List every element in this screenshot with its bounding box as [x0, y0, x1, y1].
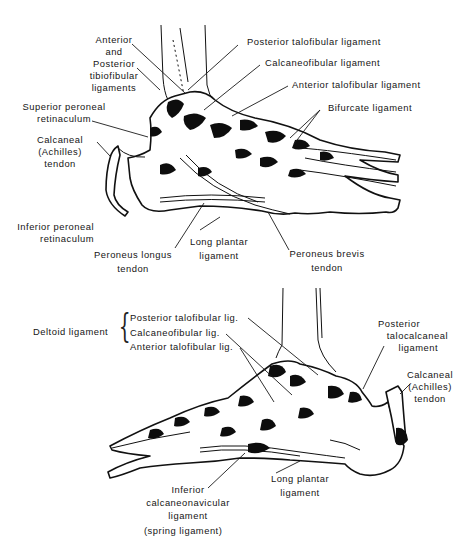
label-line: Inferior: [140, 484, 236, 496]
label-line: Superior peroneal: [18, 101, 110, 113]
label-line: retinaculum: [10, 233, 94, 245]
label-line: ligaments: [86, 82, 142, 94]
label-superior-peroneal-retinaculum: Superior peroneal retinaculum: [18, 101, 110, 125]
label-posterior-talocalcaneal-ligament: Posterior talocalcaneal ligament: [376, 318, 448, 354]
label-long-plantar-ligament-top: Long plantar ligament: [186, 236, 252, 262]
label-line: Peroneus longus: [90, 249, 176, 261]
label-line: Anterior: [86, 34, 142, 46]
label-line: Posterior: [376, 318, 448, 330]
label-line: (Achilles): [30, 146, 90, 158]
label-line: Calcaneal: [30, 134, 90, 146]
label-bifurcate-ligament: Bifurcate ligament: [328, 102, 412, 114]
label-line: Bifurcate ligament: [328, 102, 412, 114]
label-long-plantar-ligament-bottom: Long plantar ligament: [266, 473, 334, 499]
label-calcaneal-achilles-tendon-top: Calcaneal (Achilles) tendon: [30, 134, 90, 170]
label-line: ligament: [376, 342, 448, 354]
label-line: tibiofibular: [86, 70, 142, 82]
label-line: Anterior talofibular ligament: [292, 79, 421, 91]
label-line: (Achilles): [402, 381, 458, 393]
group-item-calcaneofibular: Calcaneofibular lig.: [130, 326, 238, 341]
label-inferior-calcaneonavicular-ligament: Inferior calcaneonavicular ligament (spr…: [140, 484, 236, 537]
label-peroneus-longus-tendon: Peroneus longus tendon: [90, 249, 176, 275]
top-foot-drawing: [106, 25, 400, 216]
label-line: Posterior: [86, 58, 142, 70]
group-item-posterior-talofibular: Posterior talofibular lig.: [130, 311, 238, 326]
label-line: retinaculum: [18, 113, 110, 125]
label-line: Long plantar: [266, 473, 334, 485]
label-line: ligament: [266, 487, 334, 499]
label-anterior-talofibular-ligament: Anterior talofibular ligament: [292, 79, 421, 91]
label-line: Peroneus brevis: [282, 248, 372, 260]
label-calcaneofibular-ligament: Calcaneofibular ligament: [265, 57, 380, 69]
label-line: tendon: [90, 263, 176, 275]
brace-icon: {: [119, 308, 131, 342]
label-line: (spring ligament): [140, 525, 236, 537]
label-line: tendon: [30, 158, 90, 170]
label-posterior-talofibular-ligament: Posterior talofibular ligament: [247, 36, 381, 48]
label-line: ligament: [140, 510, 236, 522]
label-line: ligament: [186, 250, 252, 262]
label-peroneus-brevis-tendon: Peroneus brevis tendon: [282, 248, 372, 274]
group-label-text: Deltoid ligament: [33, 326, 108, 337]
label-deltoid-group-items: Posterior talofibular lig. Calcaneofibul…: [130, 311, 238, 355]
label-line: and: [86, 46, 142, 58]
label-line: tendon: [402, 393, 458, 405]
group-item-anterior-talofibular: Anterior talofibular lig.: [130, 340, 238, 355]
label-line: tendon: [282, 262, 372, 274]
label-line: Calcaneal: [402, 369, 458, 381]
label-line: talocalcaneal: [376, 330, 448, 342]
label-inferior-peroneal-retinaculum: Inferior peroneal retinaculum: [10, 221, 94, 245]
label-calcaneal-achilles-tendon-bottom: Calcaneal (Achilles) tendon: [402, 369, 458, 405]
label-line: calcaneonavicular: [140, 497, 236, 509]
label-line: Long plantar: [186, 236, 252, 248]
label-line: Calcaneofibular ligament: [265, 57, 380, 69]
label-line: Posterior talofibular ligament: [247, 36, 381, 48]
label-deltoid-ligament: Deltoid ligament: [33, 326, 108, 338]
label-ant-post-tibiofibular-ligaments: Anterior and Posterior tibiofibular liga…: [86, 34, 142, 94]
label-line: Inferior peroneal: [10, 221, 94, 233]
